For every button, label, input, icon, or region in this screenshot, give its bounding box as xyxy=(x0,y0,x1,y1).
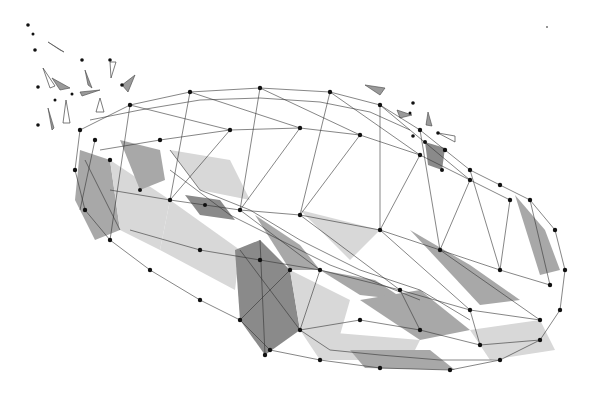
shaded-facets xyxy=(75,140,560,370)
wireframe-car-illustration xyxy=(0,0,606,393)
flying-shards xyxy=(43,42,455,142)
car-mesh-graphic xyxy=(0,0,606,393)
